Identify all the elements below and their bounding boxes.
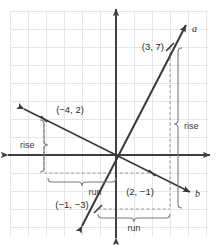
rise-label-line-a: rise <box>184 121 199 131</box>
point-label-neg1-neg3: (−1, −3) <box>55 199 88 210</box>
point-label-2-neg1: (2, −1) <box>126 186 154 197</box>
line-label-b: b <box>195 188 200 199</box>
run-label-line-a: run <box>127 223 140 233</box>
slope-diagram-figure: (3, 7) (−4, 2) (2, −1) (−1, −3) rise ris… <box>0 0 218 245</box>
run-label-line-b: run <box>88 187 101 197</box>
axes <box>8 9 210 238</box>
point-label-neg4-2: (−4, 2) <box>56 104 84 115</box>
line-label-a: a <box>192 23 197 34</box>
rise-label-line-b: rise <box>20 140 35 150</box>
point-label-3-7: (3, 7) <box>142 41 164 52</box>
coordinate-plane-svg: (3, 7) (−4, 2) (2, −1) (−1, −3) rise ris… <box>0 0 218 245</box>
